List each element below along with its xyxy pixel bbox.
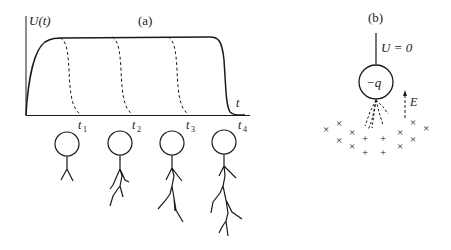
x-axis-label: t xyxy=(236,96,240,110)
svg-text:×: × xyxy=(336,134,342,146)
svg-text:×: × xyxy=(349,140,355,152)
svg-text:×: × xyxy=(323,123,329,135)
svg-text:t: t xyxy=(78,118,82,132)
field-label: E xyxy=(409,95,418,109)
svg-text:+: + xyxy=(380,132,386,144)
panel-b: (b) U = 0 −q E × × × × × × × × × × xyxy=(323,10,429,158)
charge-label: −q xyxy=(366,75,382,90)
potential-label: U = 0 xyxy=(381,40,413,55)
svg-text:×: × xyxy=(410,116,416,128)
diagram-canvas: U(t) (a) t t 1 t 2 t 3 t 4 xyxy=(0,0,451,250)
svg-text:×: × xyxy=(397,140,403,152)
svg-text:×: × xyxy=(423,122,429,134)
negative-ions: × × × × × × × × × × xyxy=(323,116,429,152)
figure-t3 xyxy=(158,131,184,222)
time-mark-t4: t 4 xyxy=(238,118,247,134)
dashed-drop-t3 xyxy=(168,37,188,114)
figure-t4 xyxy=(211,130,242,236)
dashed-drop-t2 xyxy=(112,37,132,114)
svg-text:×: × xyxy=(410,133,416,145)
time-mark-t2: t 2 xyxy=(132,118,141,134)
panel-b-label: (b) xyxy=(368,10,383,25)
time-mark-t3: t 3 xyxy=(186,118,195,134)
y-axis-label: U(t) xyxy=(29,13,51,28)
field-arrow-head-icon xyxy=(403,90,407,96)
panel-a: U(t) (a) t t 1 t 2 t 3 t 4 xyxy=(26,13,250,236)
svg-text:t: t xyxy=(132,118,136,132)
positive-ions: + + + + xyxy=(362,132,386,158)
svg-text:×: × xyxy=(336,117,342,129)
svg-text:3: 3 xyxy=(191,125,195,134)
streamers xyxy=(365,100,388,130)
svg-text:t: t xyxy=(238,118,242,132)
svg-text:×: × xyxy=(397,126,403,138)
svg-text:1: 1 xyxy=(83,125,87,134)
dashed-drop-t1 xyxy=(60,38,80,114)
svg-text:2: 2 xyxy=(137,125,141,134)
figure-t2 xyxy=(108,131,132,206)
potential-curve xyxy=(26,37,245,115)
svg-text:+: + xyxy=(362,132,368,144)
svg-text:t: t xyxy=(186,118,190,132)
panel-a-label: (a) xyxy=(138,13,152,28)
svg-text:4: 4 xyxy=(243,125,247,134)
svg-text:+: + xyxy=(362,146,368,158)
figure-t1 xyxy=(55,132,79,181)
time-mark-t1: t 1 xyxy=(78,118,87,134)
svg-text:×: × xyxy=(349,126,355,138)
svg-text:+: + xyxy=(380,146,386,158)
